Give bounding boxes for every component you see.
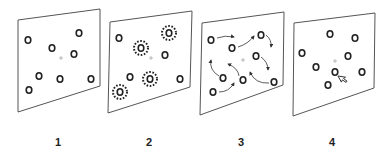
panel-label: 1 [55, 136, 61, 148]
panel-label: 3 [238, 136, 244, 148]
panel-4: 4 [293, 13, 375, 148]
panel-screen [18, 9, 100, 112]
panel-1: 1 [18, 9, 100, 148]
panel-screen [200, 12, 284, 115]
panels: 1234 [18, 9, 375, 148]
panel-3: 3 [200, 12, 284, 148]
panel-screen [293, 13, 375, 116]
mot-diagram: 1234 [0, 0, 392, 157]
panel-label: 2 [146, 136, 152, 148]
panel-screen [108, 11, 192, 113]
panel-label: 4 [329, 136, 336, 148]
panel-2: 2 [108, 11, 192, 148]
